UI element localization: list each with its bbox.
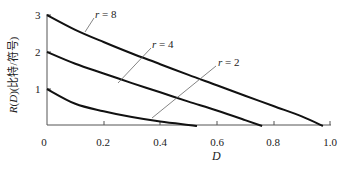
ylabel-d: D [7,95,19,103]
x-tick-label-0.8: 0.8 [266,136,280,148]
r4-val: = 4 [156,38,173,50]
ylabel-paren: ( [7,103,19,107]
curves [47,15,323,126]
r2-val: = 2 [222,56,239,68]
x-tick-label-1.0: 1.0 [323,136,337,148]
leader-r4 [118,48,151,83]
x-tick-label-0.6: 0.6 [210,136,224,148]
curve-label-r2: r = 2 [218,56,240,68]
curve-r8 [47,15,323,126]
y-tick-label-2: 2 [35,46,41,58]
curve-label-r4: r = 4 [152,38,174,50]
leader-lines [85,18,216,118]
curve-label-r8: r = 8 [95,8,117,20]
ylabel-unit: )(比特/符号) [7,37,19,95]
x-tick-label-0: 0 [41,136,47,148]
y-axis-label: R(D)(比特/符号) [4,37,20,113]
x-ticks [104,121,330,125]
x-tick-label-0.4: 0.4 [153,136,167,148]
y-tick-label-1: 1 [35,83,41,95]
leader-r8 [85,18,94,32]
ylabel-r: R [7,106,19,113]
x-tick-label-0.2: 0.2 [96,136,110,148]
x-axis-label: D [212,149,221,164]
rate-distortion-chart [0,0,342,173]
y-tick-label-3: 3 [35,9,41,21]
r8-val: = 8 [99,8,116,20]
curve-r2 [47,89,197,126]
